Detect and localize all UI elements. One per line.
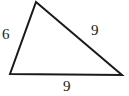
side-label-right: 9 [91, 23, 99, 38]
side-label-bottom: 9 [63, 79, 71, 94]
triangle-figure: 6 9 9 [0, 0, 129, 96]
triangle-outline [10, 2, 122, 75]
side-label-left: 6 [2, 27, 10, 42]
